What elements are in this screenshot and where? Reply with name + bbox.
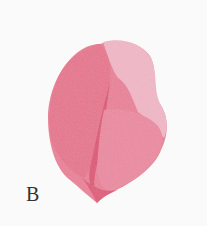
bud-right-petal (97, 109, 163, 192)
panel-label: B (26, 183, 39, 206)
